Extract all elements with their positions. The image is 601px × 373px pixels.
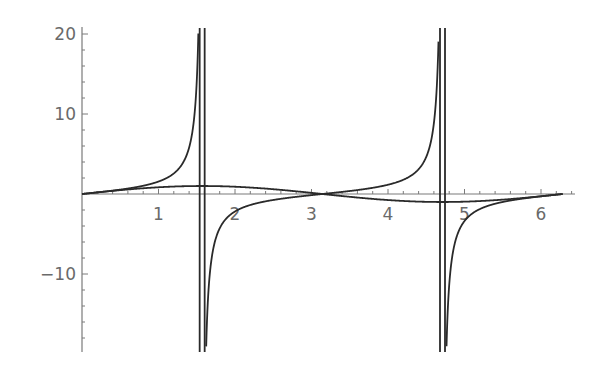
y-axis: −101020	[40, 24, 88, 352]
curve-tan	[82, 34, 198, 194]
plot-series	[82, 28, 563, 352]
x-tick-label: 1	[153, 204, 164, 224]
y-tick-label: −10	[40, 264, 76, 284]
x-tick-label: 3	[306, 204, 317, 224]
x-tick-label: 4	[383, 204, 394, 224]
function-plot: −101020 123456	[0, 0, 601, 373]
y-axis-ticks: −101020	[40, 24, 88, 338]
y-tick-label: 10	[54, 104, 76, 124]
y-tick-label: 20	[54, 24, 76, 44]
x-tick-label: 6	[536, 204, 547, 224]
